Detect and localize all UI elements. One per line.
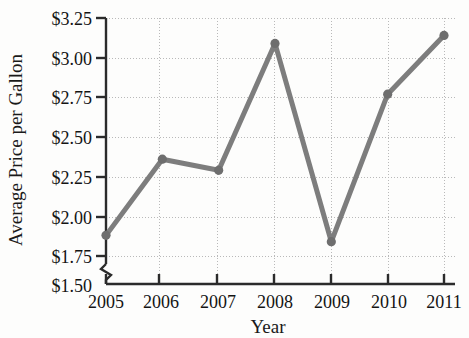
chart-figure: $3.25 $3.00 $2.75 $2.50 $2.25 $2.00 $1.7… — [0, 0, 469, 338]
xtick-label-2009: 2009 — [314, 292, 350, 312]
data-point-2006 — [158, 155, 167, 164]
y-axis — [96, 18, 111, 284]
ytick-label-3.00: $3.00 — [52, 49, 93, 69]
data-point-2007 — [214, 166, 223, 175]
data-point-2008 — [270, 39, 279, 48]
series-markers — [101, 31, 448, 246]
xtick-label-2005: 2005 — [88, 292, 124, 312]
ytick-label-1.50: $1.50 — [52, 276, 93, 296]
data-point-2010 — [383, 90, 392, 99]
data-point-2011 — [439, 31, 448, 40]
ytick-label-3.25: $3.25 — [52, 9, 93, 29]
y-tick-labels: $3.25 $3.00 $2.75 $2.50 $2.25 $2.00 $1.7… — [52, 9, 93, 296]
y-axis-title: Average Price per Gallon — [5, 53, 26, 246]
line-chart: $3.25 $3.00 $2.75 $2.50 $2.25 $2.00 $1.7… — [0, 0, 469, 338]
xtick-label-2011: 2011 — [426, 292, 461, 312]
ytick-label-2.75: $2.75 — [52, 88, 93, 108]
ytick-label-2.25: $2.25 — [52, 168, 93, 188]
x-tick-labels: 2005 2006 2007 2008 2009 2010 2011 — [88, 292, 462, 312]
xtick-label-2010: 2010 — [371, 292, 407, 312]
data-point-2009 — [327, 237, 336, 246]
data-series — [101, 31, 448, 246]
data-point-2005 — [101, 231, 110, 240]
xtick-label-2008: 2008 — [257, 292, 293, 312]
x-axis — [106, 274, 455, 284]
series-line-average-price — [106, 35, 444, 241]
xtick-label-2006: 2006 — [143, 292, 179, 312]
vertical-gridlines — [159, 18, 444, 277]
ytick-label-2.00: $2.00 — [52, 208, 93, 228]
ytick-label-1.75: $1.75 — [52, 247, 93, 267]
xtick-label-2007: 2007 — [200, 292, 236, 312]
ytick-label-2.50: $2.50 — [52, 128, 93, 148]
x-axis-title: Year — [250, 316, 286, 337]
